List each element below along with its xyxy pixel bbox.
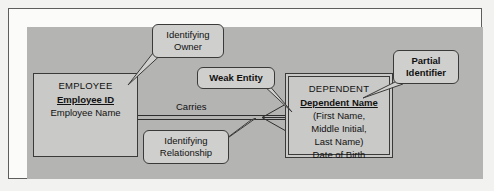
callout-identifying-owner-line2: Owner xyxy=(160,41,216,53)
callout-partial-identifier-line2: Identifier xyxy=(401,67,451,79)
callout-identifying-relationship-line1: Identifying xyxy=(151,135,221,147)
entity-employee-attribute: Employee Name xyxy=(34,107,137,118)
entity-dependent-attribute-first-name: (First Name, xyxy=(289,110,389,121)
callout-identifying-owner-line1: Identifying xyxy=(160,29,216,41)
callout-weak-entity-line1: Weak Entity xyxy=(205,72,267,84)
entity-dependent-attribute-middle-initial: Middle Initial, xyxy=(289,123,389,134)
callout-identifying-owner[interactable]: Identifying Owner xyxy=(152,24,224,58)
callout-identifying-relationship[interactable]: Identifying Relationship xyxy=(143,130,229,164)
entity-dependent-attribute-date-of-birth: Date of Birth xyxy=(289,149,389,160)
relationship-label-carries: Carries xyxy=(176,101,207,112)
entity-employee[interactable]: EMPLOYEE Employee ID Employee Name xyxy=(33,73,138,157)
er-diagram-figure: Carries EMPLOYEE Employee ID Employee Na… xyxy=(0,0,494,191)
callout-partial-identifier-line1: Partial xyxy=(401,55,451,67)
entity-employee-title: EMPLOYEE xyxy=(34,80,137,91)
callout-partial-identifier[interactable]: Partial Identifier xyxy=(393,50,459,84)
callout-identifying-relationship-line2: Relationship xyxy=(151,147,221,159)
entity-employee-identifier: Employee ID xyxy=(34,94,137,105)
callout-weak-entity[interactable]: Weak Entity xyxy=(197,67,275,89)
entity-dependent-attribute-last-name: Last Name) xyxy=(289,136,389,147)
